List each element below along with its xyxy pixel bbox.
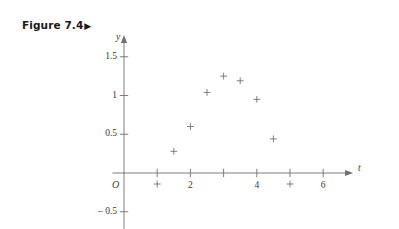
data-point-marker [170, 148, 177, 155]
chart-canvas [0, 0, 399, 229]
origin-label: O [112, 179, 119, 190]
y-axis-label: y [116, 32, 120, 42]
axes-group [112, 35, 353, 229]
y-axis-arrowhead [121, 35, 127, 43]
data-point-marker [204, 89, 211, 96]
data-point-marker [253, 96, 260, 103]
data-point-marker [270, 136, 277, 143]
data-point-marker [237, 77, 244, 84]
x-tick-label: 4 [242, 180, 272, 190]
y-tick-label: 1 [78, 90, 117, 100]
data-point-marker [154, 181, 161, 188]
figure-container: Figure 7.4▶ 246– 0.50.511.5Oty [0, 0, 399, 229]
scatter-plot: 246– 0.50.511.5Oty [0, 0, 399, 229]
x-tick-label: 6 [308, 180, 338, 190]
data-point-marker [220, 73, 227, 80]
y-tick-label: 0.5 [78, 128, 117, 138]
data-point-marker [287, 181, 294, 188]
x-axis-label: t [358, 163, 361, 173]
x-axis-arrowhead [345, 170, 353, 176]
y-tick-label: 1.5 [78, 51, 117, 61]
x-tick-label: 2 [175, 180, 205, 190]
y-tick-label: – 0.5 [78, 206, 117, 216]
tick-marks-group [120, 57, 323, 212]
data-point-marker [187, 123, 194, 130]
